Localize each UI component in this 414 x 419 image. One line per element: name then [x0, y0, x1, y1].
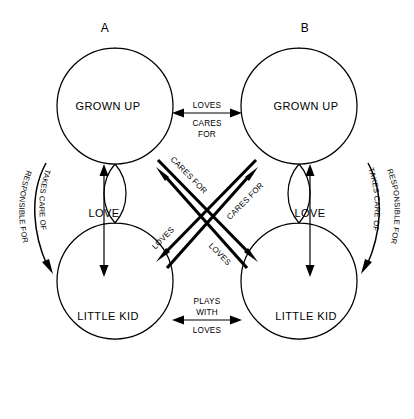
top-arrow-label-below-1: CARES	[192, 119, 222, 128]
person-a-internal-arrow	[100, 164, 109, 277]
person-a-little-kid-label: LITTLE KID	[77, 310, 138, 322]
person-b-outer-curve-label: RESPONSIBLE FOR	[385, 167, 402, 245]
top-arrow-label-above: LOVES	[193, 101, 222, 110]
person-a-outer-curve-label: RESPONSIBLE FOR	[17, 169, 33, 244]
diagram-canvas: A B GROWN UP LOVE LITTLE KID GROWN UP LO…	[0, 0, 414, 419]
bottom-arrow-label-above-2: WITH	[196, 308, 218, 317]
person-a-letter: A	[101, 21, 109, 35]
bottom-arrow-label-above-1: PLAYS	[194, 297, 221, 306]
diagonal-label-loves-right: LOVES	[207, 241, 233, 267]
person-b-little-kid-label: LITTLE KID	[275, 310, 336, 322]
bottom-arrow-label-below: LOVES	[193, 326, 222, 335]
top-arrow-label-below-2: FOR	[198, 130, 216, 139]
relationship-diagram: A B GROWN UP LOVE LITTLE KID GROWN UP LO…	[0, 0, 414, 419]
person-a-grown-up-label: GROWN UP	[76, 100, 141, 112]
person-b-letter: B	[301, 21, 309, 35]
person-b-internal-arrow	[306, 164, 315, 277]
person-b-inner-curve-label: TAKES CARE OF	[366, 167, 381, 232]
person-a-outline	[57, 48, 173, 339]
person-b-grown-up-label: GROWN UP	[274, 100, 339, 112]
